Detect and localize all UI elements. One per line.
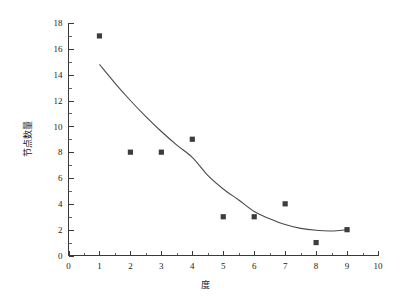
y-tick-label-14: 14 <box>54 70 64 80</box>
y-axis-title: 节点数量 <box>22 121 33 157</box>
y-tick-label-6: 6 <box>58 173 63 183</box>
data-point-2-8 <box>128 150 133 155</box>
x-tick-label-10: 10 <box>374 261 384 271</box>
x-tick-label-5: 5 <box>221 261 226 271</box>
x-tick-label-8: 8 <box>314 261 319 271</box>
y-tick-label-0: 0 <box>58 251 63 261</box>
y-tick-label-18: 18 <box>54 18 64 28</box>
data-point-1-17 <box>97 33 102 38</box>
y-tick-label-12: 12 <box>54 96 63 106</box>
x-tick-label-7: 7 <box>283 261 288 271</box>
chart-figure: 012345678910 024681012141618 度 节点数量 <box>0 0 405 304</box>
y-tick-label-2: 2 <box>58 225 63 235</box>
data-point-3-8 <box>159 150 164 155</box>
data-point-7-4 <box>283 201 288 206</box>
y-tick-label-8: 8 <box>58 147 63 157</box>
data-point-6-3 <box>252 214 257 219</box>
x-tick-label-3: 3 <box>159 261 164 271</box>
x-tick-label-2: 2 <box>128 261 133 271</box>
data-point-9-2 <box>344 227 349 232</box>
data-point-4-9 <box>190 137 195 142</box>
y-tick-label-16: 16 <box>54 44 64 54</box>
x-tick-label-4: 4 <box>190 261 195 271</box>
x-tick-label-0: 0 <box>66 261 71 271</box>
y-tick-label-10: 10 <box>54 122 64 132</box>
x-tick-label-9: 9 <box>345 261 350 271</box>
y-tick-label-4: 4 <box>58 199 63 209</box>
x-tick-label-1: 1 <box>97 261 102 271</box>
data-point-5-3 <box>221 214 226 219</box>
x-axis-title: 度 <box>201 279 210 290</box>
x-tick-label-6: 6 <box>252 261 257 271</box>
scatter-plot: 012345678910 024681012141618 度 节点数量 <box>0 0 405 304</box>
data-point-8-1 <box>314 240 319 245</box>
